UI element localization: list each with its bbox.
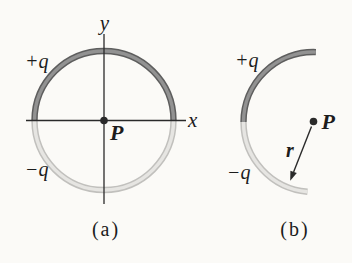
center-point-label: P	[321, 109, 336, 134]
figure-container: y x +q −q P (a) +q −q P r (b)	[0, 0, 352, 263]
x-axis-label: x	[187, 108, 198, 132]
positive-charge-label: +q	[235, 49, 259, 72]
radius-arrowhead-icon	[290, 171, 297, 181]
panel-a: y x +q −q P (a)	[25, 11, 198, 242]
center-point-label: P	[109, 120, 124, 145]
center-point-dot	[310, 118, 318, 126]
radius-label: r	[286, 139, 294, 161]
panel-b-caption: (b)	[280, 218, 309, 241]
negative-charge-label: −q	[227, 161, 251, 184]
center-point-dot	[100, 117, 108, 125]
y-axis-label: y	[98, 11, 110, 35]
figure-canvas: y x +q −q P (a) +q −q P r (b)	[0, 0, 352, 263]
negative-charge-label: −q	[25, 158, 49, 181]
panel-b: +q −q P r (b)	[227, 49, 336, 241]
negative-quarter-arc	[244, 122, 308, 192]
positive-charge-label: +q	[25, 50, 49, 73]
radius-arrow-line	[294, 127, 312, 172]
panel-a-caption: (a)	[92, 218, 120, 241]
